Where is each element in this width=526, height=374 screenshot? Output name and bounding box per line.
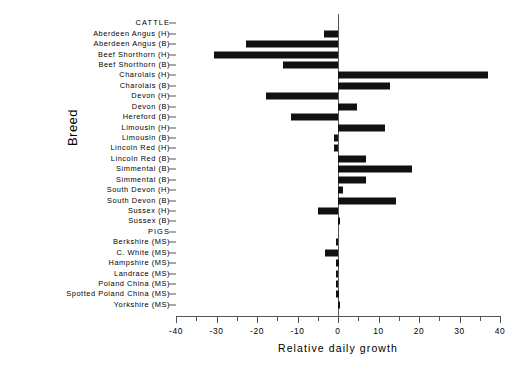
y-axis-tick <box>169 158 176 159</box>
chart-root: Breed CATTLEAberdeen Angus (H)Aberdeen A… <box>0 0 526 374</box>
category-label: Aberdeen Angus (B) <box>30 40 170 48</box>
bar <box>338 124 385 131</box>
bar <box>214 51 338 58</box>
bar <box>246 41 338 48</box>
x-axis-tick-label: 10 <box>373 326 384 336</box>
y-axis-tick <box>169 242 176 243</box>
x-axis-tick <box>460 316 461 323</box>
y-axis-tick <box>169 117 176 118</box>
bar <box>338 166 412 173</box>
category-label: Berkshire (MS) <box>30 238 170 246</box>
y-axis-tick <box>169 33 176 34</box>
category-label: Hampshire (MS) <box>30 259 170 267</box>
bar <box>266 93 338 100</box>
category-label: Aberdeen Angus (H) <box>30 30 170 38</box>
y-axis-tick <box>169 137 176 138</box>
category-label: Yorkshire (MS) <box>30 301 170 309</box>
y-axis-tick <box>169 190 176 191</box>
x-axis-tick-label: -10 <box>291 326 305 336</box>
bar <box>338 155 366 162</box>
y-axis-tick <box>169 273 176 274</box>
x-axis-tick <box>500 316 501 323</box>
bar <box>283 61 338 68</box>
category-label: PIGS <box>30 228 170 236</box>
category-axis-labels: CATTLEAberdeen Angus (H)Aberdeen Angus (… <box>30 14 170 306</box>
x-axis-tick-label: -30 <box>210 326 224 336</box>
category-label: Poland China (MS) <box>30 280 170 288</box>
y-axis-tick <box>169 231 176 232</box>
y-axis-tick <box>169 44 176 45</box>
x-axis-tick-label: 40 <box>495 326 506 336</box>
y-axis-tick <box>169 148 176 149</box>
bar <box>338 176 366 183</box>
category-label: C. White (MS) <box>30 249 170 257</box>
x-axis-tick <box>358 316 359 321</box>
x-axis-tick <box>338 316 339 323</box>
bar <box>336 280 338 287</box>
x-axis-tick <box>257 316 258 323</box>
category-label: Spotted Poland China (MS) <box>30 290 170 298</box>
x-axis-tick <box>419 316 420 323</box>
bar <box>324 30 338 37</box>
x-axis-tick <box>176 316 177 323</box>
category-label: Sussex (H) <box>30 207 170 215</box>
bar <box>338 187 343 194</box>
bar <box>336 260 338 267</box>
y-axis-tick <box>169 96 176 97</box>
y-axis-tick <box>169 294 176 295</box>
category-label: Lincoln Red (B) <box>30 155 170 163</box>
x-axis-tick <box>237 316 238 321</box>
x-axis-tick-label: -20 <box>250 326 264 336</box>
category-label: Limousin (B) <box>30 134 170 142</box>
y-axis-tick <box>169 64 176 65</box>
bar <box>318 207 338 214</box>
bar <box>338 82 390 89</box>
bar <box>334 134 338 141</box>
category-label: Lincoln Red (H) <box>30 144 170 152</box>
x-axis-tick <box>298 316 299 323</box>
bar <box>325 249 338 256</box>
x-axis-tick <box>318 316 319 321</box>
category-label: Landrace (MS) <box>30 270 170 278</box>
x-axis-tick <box>217 316 218 323</box>
bar <box>338 218 340 225</box>
y-axis-tick <box>169 85 176 86</box>
bar <box>338 103 357 110</box>
y-axis-tick <box>169 200 176 201</box>
x-axis-tick <box>196 316 197 321</box>
category-label: Devon (H) <box>30 92 170 100</box>
y-axis-tick <box>169 221 176 222</box>
category-label: Beef Shorthorn (H) <box>30 51 170 59</box>
x-axis-tick-label: -40 <box>169 326 183 336</box>
x-axis-tick <box>399 316 400 321</box>
y-axis-tick <box>169 169 176 170</box>
y-axis-tick <box>169 179 176 180</box>
y-axis-tick <box>169 23 176 24</box>
category-label: Charolais (B) <box>30 82 170 90</box>
x-axis-tick <box>277 316 278 321</box>
plot-area <box>176 14 500 316</box>
bar <box>338 301 340 308</box>
category-label: Beef Shorthorn (B) <box>30 61 170 69</box>
bar <box>336 239 338 246</box>
y-axis-tick <box>169 127 176 128</box>
y-axis-tick <box>169 106 176 107</box>
y-axis-tick <box>169 210 176 211</box>
bar <box>334 145 338 152</box>
bar <box>291 114 338 121</box>
x-axis-tick-label: 0 <box>335 326 340 336</box>
category-label: Charolais (H) <box>30 71 170 79</box>
x-axis-tick-label: 30 <box>454 326 465 336</box>
x-axis-tick-label: 20 <box>414 326 425 336</box>
category-label: South Devon (B) <box>30 197 170 205</box>
bar <box>336 270 338 277</box>
category-label: Simmental (B) <box>30 165 170 173</box>
y-axis-tick <box>169 263 176 264</box>
y-axis-tick <box>169 75 176 76</box>
bar <box>338 197 396 204</box>
category-label: CATTLE <box>30 19 170 27</box>
category-label: Sussex (B) <box>30 217 170 225</box>
x-axis-tick <box>439 316 440 321</box>
category-label: Limousin (H) <box>30 124 170 132</box>
y-axis-tick <box>169 304 176 305</box>
